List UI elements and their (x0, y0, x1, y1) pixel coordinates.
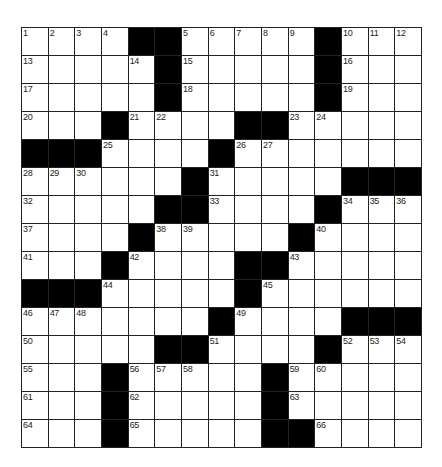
crossword-cell[interactable] (155, 140, 181, 167)
crossword-cell[interactable] (129, 280, 155, 307)
crossword-cell[interactable]: 54 (395, 336, 421, 363)
crossword-cell[interactable] (155, 308, 181, 335)
crossword-cell[interactable] (49, 364, 75, 391)
crossword-cell[interactable] (262, 56, 288, 83)
crossword-cell[interactable] (395, 420, 421, 447)
crossword-cell[interactable]: 51 (209, 336, 235, 363)
crossword-cell[interactable] (369, 84, 395, 111)
crossword-cell[interactable]: 18 (182, 84, 208, 111)
crossword-cell[interactable] (75, 56, 101, 83)
crossword-cell[interactable]: 66 (315, 420, 341, 447)
crossword-cell[interactable] (342, 280, 368, 307)
crossword-cell[interactable]: 8 (262, 28, 288, 55)
crossword-cell[interactable] (289, 308, 315, 335)
crossword-cell[interactable] (75, 252, 101, 279)
crossword-cell[interactable]: 34 (342, 196, 368, 223)
crossword-cell[interactable] (102, 168, 128, 195)
crossword-cell[interactable]: 41 (22, 252, 48, 279)
crossword-cell[interactable]: 49 (235, 308, 261, 335)
crossword-cell[interactable]: 37 (22, 224, 48, 251)
crossword-cell[interactable] (315, 308, 341, 335)
crossword-cell[interactable] (262, 196, 288, 223)
crossword-cell[interactable] (235, 364, 261, 391)
crossword-cell[interactable] (75, 84, 101, 111)
crossword-cell[interactable] (182, 252, 208, 279)
crossword-cell[interactable] (315, 140, 341, 167)
crossword-cell[interactable] (182, 280, 208, 307)
crossword-cell[interactable] (342, 420, 368, 447)
crossword-cell[interactable]: 19 (342, 84, 368, 111)
crossword-cell[interactable]: 63 (289, 392, 315, 419)
crossword-cell[interactable] (395, 112, 421, 139)
crossword-cell[interactable]: 38 (155, 224, 181, 251)
crossword-cell[interactable] (315, 392, 341, 419)
crossword-cell[interactable] (289, 336, 315, 363)
crossword-cell[interactable]: 24 (315, 112, 341, 139)
crossword-cell[interactable] (155, 168, 181, 195)
crossword-cell[interactable] (262, 84, 288, 111)
crossword-cell[interactable] (49, 224, 75, 251)
crossword-cell[interactable] (262, 308, 288, 335)
crossword-cell[interactable]: 12 (395, 28, 421, 55)
crossword-cell[interactable]: 56 (129, 364, 155, 391)
crossword-cell[interactable]: 28 (22, 168, 48, 195)
crossword-cell[interactable] (342, 252, 368, 279)
crossword-cell[interactable] (342, 364, 368, 391)
crossword-cell[interactable] (235, 168, 261, 195)
crossword-cell[interactable] (102, 336, 128, 363)
crossword-cell[interactable] (49, 336, 75, 363)
crossword-cell[interactable] (315, 252, 341, 279)
crossword-cell[interactable] (75, 392, 101, 419)
crossword-cell[interactable]: 42 (129, 252, 155, 279)
crossword-cell[interactable] (395, 392, 421, 419)
crossword-cell[interactable] (369, 280, 395, 307)
crossword-cell[interactable]: 32 (22, 196, 48, 223)
crossword-cell[interactable] (49, 112, 75, 139)
crossword-cell[interactable] (209, 84, 235, 111)
crossword-cell[interactable] (395, 364, 421, 391)
crossword-cell[interactable] (395, 56, 421, 83)
crossword-cell[interactable]: 15 (182, 56, 208, 83)
crossword-cell[interactable] (49, 392, 75, 419)
crossword-cell[interactable] (102, 224, 128, 251)
crossword-cell[interactable] (129, 336, 155, 363)
crossword-cell[interactable] (369, 364, 395, 391)
crossword-cell[interactable] (129, 168, 155, 195)
crossword-cell[interactable] (369, 112, 395, 139)
crossword-cell[interactable] (209, 112, 235, 139)
crossword-cell[interactable]: 58 (182, 364, 208, 391)
crossword-cell[interactable] (235, 336, 261, 363)
crossword-cell[interactable]: 30 (75, 168, 101, 195)
crossword-cell[interactable] (209, 56, 235, 83)
crossword-cell[interactable] (155, 252, 181, 279)
crossword-cell[interactable] (262, 168, 288, 195)
crossword-cell[interactable] (155, 280, 181, 307)
crossword-cell[interactable]: 47 (49, 308, 75, 335)
crossword-cell[interactable] (289, 196, 315, 223)
crossword-cell[interactable] (182, 308, 208, 335)
crossword-cell[interactable]: 29 (49, 168, 75, 195)
crossword-cell[interactable] (129, 140, 155, 167)
crossword-cell[interactable] (102, 196, 128, 223)
crossword-cell[interactable]: 1 (22, 28, 48, 55)
crossword-cell[interactable] (342, 224, 368, 251)
crossword-cell[interactable] (395, 252, 421, 279)
crossword-cell[interactable]: 23 (289, 112, 315, 139)
crossword-cell[interactable] (75, 196, 101, 223)
crossword-cell[interactable] (129, 196, 155, 223)
crossword-cell[interactable] (102, 84, 128, 111)
crossword-cell[interactable] (182, 112, 208, 139)
crossword-cell[interactable]: 26 (235, 140, 261, 167)
crossword-cell[interactable]: 20 (22, 112, 48, 139)
crossword-cell[interactable] (369, 56, 395, 83)
crossword-cell[interactable]: 35 (369, 196, 395, 223)
crossword-cell[interactable]: 25 (102, 140, 128, 167)
crossword-cell[interactable] (75, 112, 101, 139)
crossword-cell[interactable] (102, 308, 128, 335)
crossword-cell[interactable]: 27 (262, 140, 288, 167)
crossword-cell[interactable] (209, 392, 235, 419)
crossword-cell[interactable] (289, 168, 315, 195)
crossword-cell[interactable]: 6 (209, 28, 235, 55)
crossword-cell[interactable] (369, 392, 395, 419)
crossword-cell[interactable]: 45 (262, 280, 288, 307)
